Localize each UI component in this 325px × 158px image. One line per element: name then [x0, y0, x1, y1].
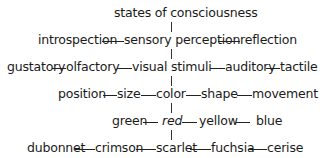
node-reflection: reflection [240, 32, 297, 48]
node-sensory-perception: sensory perception [124, 32, 240, 48]
connector-horizontal [75, 149, 95, 150]
node-red: red [162, 113, 182, 129]
connector-horizontal [143, 122, 158, 123]
node-introspection: introspection [38, 32, 117, 48]
node-shape: shape [201, 86, 238, 102]
node-color: color [156, 86, 186, 102]
node-position: position [58, 86, 106, 102]
node-yellow: yellow [199, 113, 238, 129]
node-fuchsia: fuchsia [211, 140, 254, 156]
node-size: size [117, 86, 140, 102]
connector-horizontal [136, 149, 156, 150]
connector-vertical [171, 103, 172, 113]
connector-horizontal [102, 41, 124, 42]
node-cerise: cerise [267, 140, 303, 156]
node-dubonnet: dubonnet [27, 140, 85, 156]
node-crimson: crimson [95, 140, 143, 156]
connector-horizontal [52, 68, 66, 69]
connector-horizontal [266, 68, 280, 69]
node-movement: movement [252, 86, 318, 102]
node-states-of-consciousness: states of consciousness [114, 5, 258, 21]
connector-horizontal [182, 122, 197, 123]
node-blue: blue [256, 113, 282, 129]
connector-vertical [171, 49, 172, 59]
node-green: green [112, 113, 147, 129]
connector-vertical [171, 130, 172, 140]
node-gustatory: gustatory [7, 59, 65, 75]
connector-horizontal [218, 41, 240, 42]
connector-vertical [171, 76, 172, 86]
node-visual-stimuli: visual stimuli [132, 59, 212, 75]
connector-horizontal [103, 95, 117, 96]
connector-horizontal [186, 95, 201, 96]
node-olfactory: olfactory [66, 59, 119, 75]
connector-horizontal [117, 68, 132, 69]
connector-horizontal [248, 149, 267, 150]
connector-horizontal [190, 149, 211, 150]
connector-horizontal [236, 122, 250, 123]
connector-vertical [171, 22, 172, 32]
node-auditory: auditory [225, 59, 275, 75]
connector-horizontal [141, 95, 156, 96]
connector-horizontal [237, 95, 252, 96]
node-tactile: tactile [280, 59, 318, 75]
node-scarlet: scarlet [156, 140, 197, 156]
connector-horizontal [210, 68, 225, 69]
